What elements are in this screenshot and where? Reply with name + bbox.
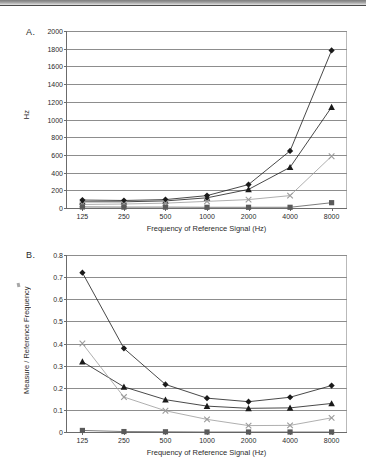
panel-b-plot-area: 00.10.20.30.40.50.60.70.8125250500100020… bbox=[66, 255, 347, 433]
x-tick-label: 500 bbox=[160, 213, 172, 220]
data-point-marker bbox=[79, 270, 85, 276]
data-point-marker bbox=[163, 429, 168, 434]
y-tick-label: 0.4 bbox=[53, 340, 63, 347]
y-tick-label: 0 bbox=[59, 429, 63, 436]
data-point-marker bbox=[329, 47, 335, 53]
data-point-marker bbox=[329, 153, 335, 159]
y-tick-label: 0.6 bbox=[53, 296, 63, 303]
x-tick-label: 1000 bbox=[199, 213, 215, 220]
y-tick-label: 1400 bbox=[47, 81, 63, 88]
data-point-marker bbox=[245, 399, 251, 405]
y-tick-mark bbox=[64, 208, 67, 209]
series-layer bbox=[67, 255, 347, 432]
data-point-marker bbox=[287, 205, 292, 210]
x-tick-label: 2000 bbox=[241, 213, 257, 220]
scan-artifact-top-band bbox=[0, 0, 366, 6]
series-line-triangle bbox=[82, 362, 331, 409]
data-point-marker bbox=[329, 382, 335, 388]
data-point-marker bbox=[287, 164, 294, 170]
panel-b-y-axis-title: Measure / Reference Frequency bbox=[22, 274, 31, 406]
y-tick-label: 0.1 bbox=[53, 406, 63, 413]
x-tick-label: 8000 bbox=[324, 437, 340, 444]
data-point-marker bbox=[80, 341, 86, 347]
y-tick-label: 1600 bbox=[47, 63, 63, 70]
x-tick-label: 250 bbox=[118, 213, 130, 220]
x-tick-label: 2000 bbox=[241, 437, 257, 444]
panel-a-plot-area: 0200400600800100012001400160018002000125… bbox=[66, 31, 347, 209]
x-tick-label: 1000 bbox=[199, 437, 215, 444]
y-tick-label: 1800 bbox=[47, 45, 63, 52]
x-tick-label: 125 bbox=[77, 437, 89, 444]
data-point-marker bbox=[328, 104, 335, 110]
data-point-marker bbox=[329, 200, 334, 205]
data-point-marker bbox=[204, 429, 209, 434]
series-line-diamond bbox=[82, 50, 331, 200]
data-point-marker bbox=[329, 429, 334, 434]
y-tick-label: 0.8 bbox=[53, 252, 63, 259]
x-tick-label: 8000 bbox=[324, 213, 340, 220]
data-point-marker bbox=[80, 428, 85, 433]
panel-a-letter: A. bbox=[26, 27, 36, 37]
x-tick-label: 500 bbox=[160, 437, 172, 444]
panel-b-letter: B. bbox=[26, 250, 36, 260]
data-point-marker bbox=[162, 396, 169, 402]
x-tick-label: 4000 bbox=[282, 437, 298, 444]
data-point-marker bbox=[246, 205, 251, 210]
series-line-triangle bbox=[82, 107, 331, 202]
data-point-marker bbox=[79, 358, 86, 364]
x-tick-mark bbox=[332, 208, 333, 211]
y-tick-label: 800 bbox=[51, 134, 63, 141]
y-tick-label: 600 bbox=[51, 151, 63, 158]
y-tick-mark bbox=[64, 432, 67, 433]
panel-a-y-axis-title: Hz bbox=[22, 110, 31, 119]
data-point-marker bbox=[287, 394, 293, 400]
data-point-marker bbox=[287, 429, 292, 434]
data-point-marker bbox=[121, 394, 127, 400]
x-tick-label: 4000 bbox=[282, 213, 298, 220]
y-tick-label: 0.3 bbox=[53, 362, 63, 369]
series-line-diamond bbox=[82, 273, 331, 402]
data-point-marker bbox=[246, 429, 251, 434]
panel-b-x-axis-title: Frequency of Reference Signal (Hz) bbox=[66, 448, 347, 457]
y-tick-label: 400 bbox=[51, 169, 63, 176]
y-tick-label: 0 bbox=[59, 205, 63, 212]
y-tick-label: 1000 bbox=[47, 116, 63, 123]
panel-a: A. Hz 0200400600800100012001400160018002… bbox=[0, 14, 366, 246]
panel-b: B. Measure / Reference Frequency 00.10.2… bbox=[0, 246, 366, 475]
data-point-marker bbox=[204, 395, 210, 401]
panel-a-x-axis-title: Frequency of Reference Signal (Hz) bbox=[66, 224, 347, 233]
x-tick-label: 125 bbox=[77, 213, 89, 220]
data-point-marker bbox=[245, 186, 252, 192]
data-point-marker bbox=[163, 205, 168, 210]
x-tick-label: 250 bbox=[118, 437, 130, 444]
y-tick-label: 0.5 bbox=[53, 318, 63, 325]
data-point-marker bbox=[121, 384, 128, 390]
data-point-marker bbox=[121, 429, 126, 434]
data-point-marker bbox=[121, 205, 126, 210]
y-tick-label: 200 bbox=[51, 187, 63, 194]
y-tick-label: 2000 bbox=[47, 28, 63, 35]
series-layer bbox=[67, 31, 347, 208]
data-point-marker bbox=[204, 205, 209, 210]
y-tick-label: 1200 bbox=[47, 98, 63, 105]
y-tick-label: 0.7 bbox=[53, 274, 63, 281]
data-point-marker bbox=[80, 204, 85, 209]
data-point-marker bbox=[328, 400, 335, 406]
y-tick-label: 0.2 bbox=[53, 384, 63, 391]
